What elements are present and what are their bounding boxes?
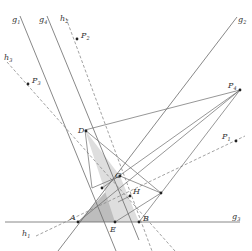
line-label-h2: h2 (60, 14, 68, 24)
line-label-h3: h3 (4, 53, 12, 63)
line-h1 (36, 136, 245, 236)
point-A (77, 221, 80, 224)
point-H (129, 195, 132, 198)
point-label-E: E (109, 225, 116, 234)
point-label-H: H (132, 187, 141, 196)
point-E (114, 221, 117, 224)
point-label-B: B (142, 214, 149, 223)
point-label-D: D (77, 126, 85, 135)
point-label-P4: P4 (227, 81, 237, 91)
line-label-g4: g4 (39, 15, 47, 25)
segment-8 (120, 176, 161, 193)
point-X2 (101, 187, 104, 190)
line-g1 (20, 16, 116, 251)
line-label-g1: g1 (12, 15, 20, 25)
line-label-g3: g3 (232, 212, 240, 222)
point-label-P2: P2 (80, 31, 90, 41)
point-P3 (27, 83, 30, 86)
point-P2 (76, 38, 79, 41)
point-P1 (235, 140, 238, 143)
point-D (85, 130, 88, 133)
point-label-A: A (69, 213, 76, 222)
segment-0 (85, 90, 240, 130)
point-B (138, 221, 141, 224)
point-label-P1: P1 (221, 132, 231, 142)
point-label-P3: P3 (31, 76, 41, 86)
geometry-diagram: g1g4g2g3h2h3h1P1P2P3P4DCHAEB (0, 0, 252, 251)
point-X1 (160, 192, 163, 195)
line-label-g2: g2 (238, 15, 246, 25)
line-label-h1: h1 (22, 229, 30, 239)
point-label-C: C (115, 171, 121, 180)
segment-6 (139, 90, 240, 222)
point-P4 (239, 89, 242, 92)
segment-5 (102, 90, 240, 188)
line-h3 (7, 62, 175, 251)
